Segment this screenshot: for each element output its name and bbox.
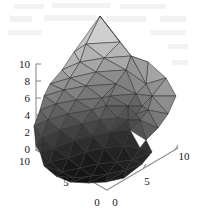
x-tick-0: 0 [94, 196, 100, 208]
x-tick-10: 10 [19, 155, 31, 167]
y-tick-0: 0 [112, 196, 118, 208]
surface-plot-svg: 10 8 6 4 2 0 10 5 0 0 5 10 [0, 0, 200, 219]
z-tick-6: 6 [25, 92, 31, 104]
z-tick-0: 0 [25, 143, 31, 155]
y-tick-10: 10 [179, 150, 191, 162]
x-tick-5: 5 [63, 176, 69, 188]
z-tick-2: 2 [25, 126, 31, 138]
surface-plot-figure: 10 8 6 4 2 0 10 5 0 0 5 10 [0, 0, 200, 219]
z-tick-10: 10 [19, 58, 31, 70]
z-tick-4: 4 [25, 109, 31, 121]
z-tick-8: 8 [25, 75, 31, 87]
y-tick-5: 5 [144, 175, 150, 187]
